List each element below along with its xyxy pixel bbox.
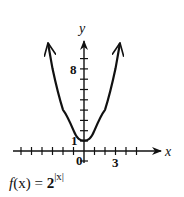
formula-exponent: |x| [54,170,64,182]
y-axis [80,41,88,163]
formula-base: 2 [47,175,55,191]
formula-argument: (x) = [13,175,46,191]
curve-f-of-x [84,43,120,141]
graph-canvas: y x 8 1 0 3 [0,0,184,197]
function-formula: f(x) = 2|x| [9,172,64,192]
y-axis-label: y [77,21,86,36]
x-axis-label: x [164,144,172,159]
origin-label: 0 [76,153,83,168]
y-tick-label-1: 1 [71,133,78,148]
y-tick-label-8: 8 [70,62,77,77]
x-axis [13,147,161,155]
x-tick-label-3: 3 [112,155,119,170]
curve-f-of-x-left [48,43,84,141]
